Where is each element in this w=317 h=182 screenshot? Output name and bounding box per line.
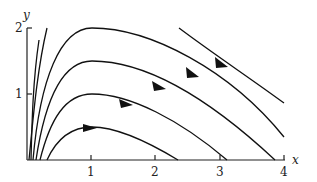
trajectory-4 <box>40 94 227 160</box>
x-tick-label-3: 3 <box>216 165 224 179</box>
x-axis-label: x <box>292 153 299 167</box>
trajectory-3 <box>36 61 275 160</box>
y-tick-label-2: 2 <box>15 21 23 35</box>
x-tick-label-4: 4 <box>280 165 288 179</box>
y-axis-label: y <box>22 8 30 22</box>
trajectory-6 <box>179 28 284 103</box>
x-tick-label-2: 2 <box>151 165 159 179</box>
phase-portrait: 1 2 3 4 1 2 x y <box>0 0 317 182</box>
arrow-icon <box>186 67 199 78</box>
trajectory-2 <box>33 28 284 160</box>
arrow-icon <box>83 124 97 132</box>
trajectories <box>29 28 284 160</box>
y-tick-label-1: 1 <box>15 87 23 101</box>
trajectory-5 <box>47 127 178 160</box>
x-tick-label-1: 1 <box>87 165 95 179</box>
arrow-icon <box>152 81 166 91</box>
axes <box>27 28 285 160</box>
